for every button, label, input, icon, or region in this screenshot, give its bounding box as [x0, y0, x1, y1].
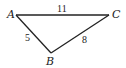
- side-length-ab: 5: [25, 32, 30, 43]
- vertex-label-a: A: [6, 8, 15, 21]
- side-length-bc: 8: [82, 34, 87, 45]
- side-BC: [51, 15, 109, 53]
- vertex-label-c: C: [112, 8, 121, 21]
- vertex-label-b: B: [45, 55, 54, 68]
- side-AB: [16, 15, 51, 53]
- side-length-ac: 11: [57, 3, 67, 14]
- triangle-diagram: A B C 11 5 8: [0, 0, 126, 68]
